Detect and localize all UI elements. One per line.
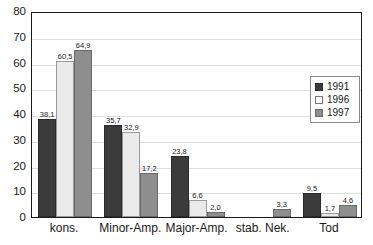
bar-value-label: 2,0 [210,204,220,212]
bar [171,156,189,217]
legend-item: 1991 [315,80,355,93]
legend-item: 1997 [315,106,355,119]
bar [303,193,321,217]
y-axis-tick-label: 0 [20,212,26,224]
bar-chart: 01020304050607080 38,160,564,935,732,917… [0,0,373,245]
bar-value-label: 4,6 [343,197,353,205]
bar-value-label: 3,3 [276,201,286,209]
legend-item-label: 1997 [327,108,349,118]
y-axis-tick-label: 20 [13,161,26,173]
bar [38,119,56,217]
bar-value-label: 38,1 [40,111,55,119]
y-axis: 01020304050607080 [0,0,31,245]
bar [207,212,225,217]
bar-value-label: 35,7 [106,117,121,125]
bar-value-label: 9,5 [307,185,317,193]
legend-item-label: 1996 [327,95,349,105]
bar-value-label: 60,5 [58,53,73,61]
bar [189,200,207,217]
y-axis-tick-label: 80 [13,6,26,18]
bar-value-label: 1,7 [325,205,335,213]
bar [122,132,140,217]
x-axis-category-labels: kons.Minor-Amp.Major-Amp.stab. Nek.Tod [31,220,362,242]
legend-swatch-icon [315,109,323,117]
x-axis-tick-label: kons. [50,222,79,234]
bar-value-label: 23,8 [172,148,187,156]
x-axis-tick-label: Major-Amp. [165,222,227,234]
bar [140,173,158,217]
bar [273,209,291,217]
y-axis-tick-label: 10 [13,187,26,199]
y-axis-tick-label: 70 [13,32,26,44]
legend-item: 1996 [315,93,355,106]
bar [321,213,339,217]
x-axis-tick-label: Minor-Amp. [99,222,161,234]
bar [104,125,122,217]
bar [74,50,92,217]
y-axis-tick-label: 40 [13,109,26,121]
y-axis-tick-label: 50 [13,84,26,96]
legend: 199119961997 [310,76,360,123]
bar [56,61,74,217]
y-axis-tick-label: 30 [13,135,26,147]
bar-value-label: 64,9 [76,42,91,50]
legend-swatch-icon [315,83,323,91]
bar-value-label: 6,6 [192,192,202,200]
legend-swatch-icon [315,96,323,104]
legend-item-label: 1991 [327,82,349,92]
bar-value-label: 32,9 [124,124,139,132]
y-axis-tick-label: 60 [13,58,26,70]
bar [339,205,357,217]
x-axis-tick-label: stab. Nek. [236,222,290,234]
x-axis-tick-label: Tod [319,222,338,234]
bar-value-label: 17,2 [142,165,157,173]
